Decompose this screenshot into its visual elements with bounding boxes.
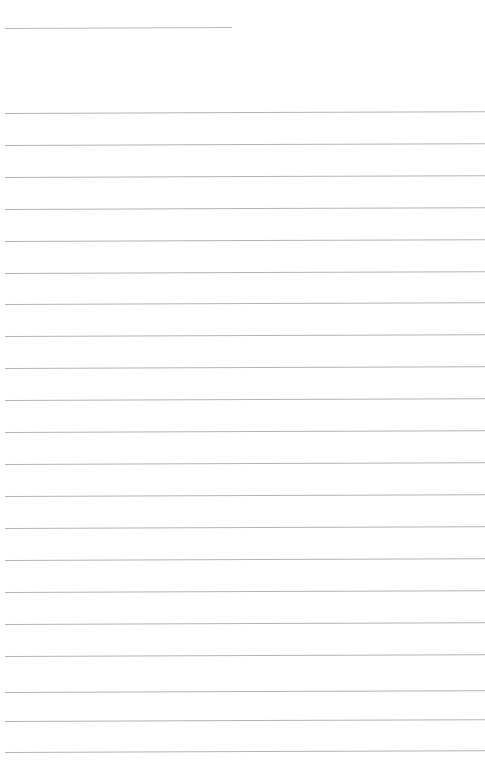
ruled-line bbox=[5, 690, 485, 693]
ruled-line bbox=[5, 558, 485, 561]
ruled-line bbox=[5, 111, 485, 114]
ruled-line bbox=[5, 175, 485, 178]
ruled-line bbox=[5, 719, 485, 722]
ruled-line bbox=[5, 271, 485, 274]
ruled-line bbox=[5, 622, 485, 625]
ruled-line bbox=[5, 302, 485, 305]
ruled-line bbox=[5, 366, 485, 369]
ruled-line bbox=[5, 398, 485, 401]
header-rule bbox=[5, 27, 232, 29]
ruled-line bbox=[5, 526, 485, 529]
ruled-line bbox=[5, 143, 485, 146]
ruled-line bbox=[5, 430, 485, 433]
page-canvas bbox=[0, 0, 485, 780]
ruled-line bbox=[5, 590, 485, 593]
ruled-line bbox=[5, 462, 485, 465]
ruled-line bbox=[5, 207, 485, 210]
ruled-line bbox=[5, 334, 485, 337]
ruled-line bbox=[5, 239, 485, 242]
ruled-line bbox=[5, 750, 485, 753]
ruled-line bbox=[5, 494, 485, 497]
ruled-lines-layer bbox=[0, 0, 485, 780]
ruled-line bbox=[5, 654, 485, 657]
